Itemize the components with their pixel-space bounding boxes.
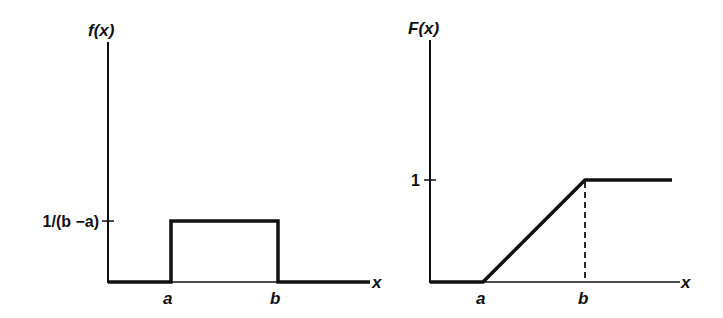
cdf-curve xyxy=(430,180,672,282)
cdf-x-tick-a: a xyxy=(476,289,485,308)
cdf-y-label: F(x) xyxy=(408,19,440,38)
pdf-y-tick-label: 1/(b −a) xyxy=(43,213,99,230)
diagram-canvas: f(x) 1/(b −a) a b x F(x) 1 a b x xyxy=(0,0,723,318)
pdf-x-tick-a: a xyxy=(163,289,172,308)
pdf-panel: f(x) 1/(b −a) a b x xyxy=(43,21,383,308)
cdf-x-label: x xyxy=(680,273,692,292)
cdf-panel: F(x) 1 a b x xyxy=(408,19,692,308)
pdf-y-label: f(x) xyxy=(88,21,115,40)
cdf-x-tick-b: b xyxy=(578,289,588,308)
pdf-x-label: x xyxy=(371,273,383,292)
cdf-y-tick-label: 1 xyxy=(411,172,420,189)
pdf-curve xyxy=(108,221,370,282)
pdf-x-tick-b: b xyxy=(270,289,280,308)
